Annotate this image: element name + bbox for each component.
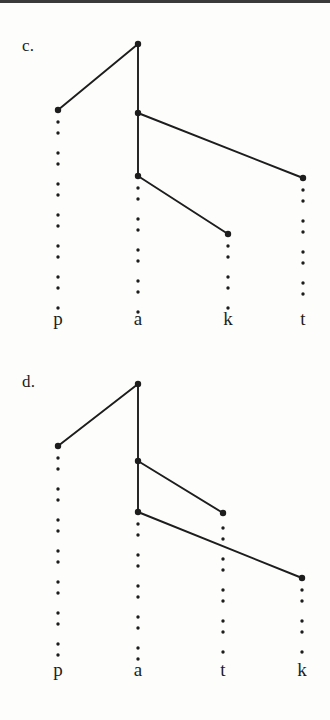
- guide-dot: [136, 533, 139, 536]
- guide-dot: [221, 650, 224, 653]
- node-a-second: [135, 458, 141, 464]
- column-label-t: t: [288, 308, 318, 330]
- column-label-k: k: [287, 659, 317, 681]
- dotted-guide-t-0: [301, 188, 304, 295]
- guide-dot: [56, 162, 59, 165]
- guide-dot: [136, 615, 139, 618]
- panel-d-group: [55, 381, 305, 661]
- guide-dot: [56, 591, 59, 594]
- guide-dot: [301, 219, 304, 222]
- guide-dot: [221, 537, 224, 540]
- guide-dot: [136, 248, 139, 251]
- guide-dot: [56, 182, 59, 185]
- dotted-guide-k-1: [300, 588, 303, 653]
- figure-page: c. d. paktpatk: [0, 0, 330, 720]
- guide-dot: [56, 653, 59, 656]
- column-label-p: p: [43, 659, 73, 681]
- guide-dot: [56, 275, 59, 278]
- node-p: [55, 443, 61, 449]
- guide-dot: [136, 217, 139, 220]
- guide-dot: [56, 224, 59, 227]
- guide-dot: [56, 456, 59, 459]
- column-label-a: a: [123, 659, 153, 681]
- column-label-k: k: [213, 308, 243, 330]
- trie-diagram-canvas: [0, 0, 330, 720]
- guide-dot: [136, 522, 139, 525]
- guide-dot: [221, 619, 224, 622]
- node-t: [220, 510, 226, 516]
- guide-dot: [221, 557, 224, 560]
- guide-dot: [136, 279, 139, 282]
- guide-dot: [221, 599, 224, 602]
- guide-dot: [136, 595, 139, 598]
- node-a-third: [135, 173, 141, 179]
- guide-dot: [136, 584, 139, 587]
- guide-dot: [136, 553, 139, 556]
- guide-dot: [56, 642, 59, 645]
- guide-dot: [136, 646, 139, 649]
- node-p: [55, 107, 61, 113]
- edge-edge-a-root-to-p: [58, 384, 138, 446]
- guide-dot: [56, 529, 59, 532]
- guide-dot: [56, 286, 59, 289]
- column-label-t: t: [208, 659, 238, 681]
- guide-dot: [56, 487, 59, 490]
- edge-edge-a-root-to-p: [58, 44, 138, 110]
- node-a-second: [135, 110, 141, 116]
- dotted-guide-p-1: [56, 456, 59, 656]
- column-label-p: p: [43, 308, 73, 330]
- edge-edge-a2-to-t: [138, 461, 223, 513]
- guide-dot: [301, 261, 304, 264]
- edge-edge-a3-to-k: [138, 176, 228, 234]
- guide-dot: [136, 186, 139, 189]
- guide-dot: [56, 498, 59, 501]
- dotted-guide-a-0: [136, 186, 139, 313]
- guide-dot: [221, 526, 224, 529]
- node-t: [300, 175, 306, 181]
- guide-dot: [56, 549, 59, 552]
- node-k: [225, 231, 231, 237]
- guide-dot: [301, 292, 304, 295]
- guide-dot: [136, 197, 139, 200]
- edge-edge-a2-to-t: [138, 113, 303, 178]
- column-label-a: a: [123, 308, 153, 330]
- guide-dot: [136, 228, 139, 231]
- guide-dot: [300, 599, 303, 602]
- node-k: [299, 575, 305, 581]
- guide-dot: [56, 622, 59, 625]
- guide-dot: [56, 518, 59, 521]
- guide-dot: [226, 275, 229, 278]
- node-a-root: [135, 41, 141, 47]
- node-a-root: [135, 381, 141, 387]
- dotted-guide-k-0: [226, 244, 229, 309]
- guide-dot: [300, 588, 303, 591]
- guide-dot: [301, 199, 304, 202]
- guide-dot: [56, 131, 59, 134]
- guide-dot: [300, 630, 303, 633]
- guide-dot: [300, 650, 303, 653]
- guide-dot: [226, 286, 229, 289]
- guide-dot: [56, 560, 59, 563]
- guide-dot: [221, 568, 224, 571]
- guide-dot: [56, 611, 59, 614]
- guide-dot: [136, 259, 139, 262]
- guide-dot: [56, 120, 59, 123]
- node-a-third: [135, 509, 141, 515]
- dotted-guide-a-1: [136, 522, 139, 660]
- guide-dot: [221, 588, 224, 591]
- guide-dot: [56, 193, 59, 196]
- guide-dot: [136, 626, 139, 629]
- guide-dot: [136, 290, 139, 293]
- guide-dot: [226, 255, 229, 258]
- guide-dot: [301, 230, 304, 233]
- guide-dot: [301, 188, 304, 191]
- guide-dot: [56, 151, 59, 154]
- guide-dot: [301, 281, 304, 284]
- guide-dot: [136, 564, 139, 567]
- edge-edge-a3-to-k: [138, 512, 302, 578]
- guide-dot: [56, 213, 59, 216]
- guide-dot: [226, 244, 229, 247]
- guide-dot: [56, 255, 59, 258]
- guide-dot: [221, 630, 224, 633]
- guide-dot: [56, 580, 59, 583]
